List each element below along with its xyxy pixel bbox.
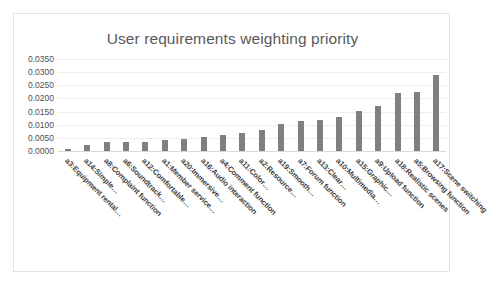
x-label-slot: a9:Upload function (369, 153, 388, 273)
x-label-slot: a2:Resource… (252, 153, 271, 273)
x-axis-category-labels: a3:Equipment rental…a14:Simple…a8:Compla… (58, 153, 446, 273)
bar-slot (349, 59, 368, 151)
bar (336, 117, 342, 151)
bar-slot (388, 59, 407, 151)
bar (142, 142, 148, 151)
chart-title: User requirements weighting priority (14, 30, 451, 48)
bar (298, 121, 304, 151)
x-label-slot: a14:Simple… (77, 153, 96, 273)
bar-slot (233, 59, 252, 151)
bar-slot (369, 59, 388, 151)
x-label-slot: a6:Soundtrack… (116, 153, 135, 273)
bar-slot (213, 59, 232, 151)
bar (259, 130, 265, 151)
bar-slot (155, 59, 174, 151)
bar (84, 145, 90, 151)
x-label-slot: a11:Color… (233, 153, 252, 273)
x-label-slot: a15:Graphic… (349, 153, 368, 273)
y-axis-tick-4: 0.0200 (14, 93, 54, 103)
bar (278, 124, 284, 151)
x-label-slot: a17:Scene switching (427, 153, 446, 273)
x-label-slot: a16:Audio interaction (194, 153, 213, 273)
bar-slot (252, 59, 271, 151)
x-label-slot: a12:Comfortable… (136, 153, 155, 273)
bar (220, 135, 226, 151)
bar (356, 111, 362, 151)
x-label-slot: a18:Realistic scenes (388, 153, 407, 273)
y-axis-tick-7: 0.0350 (14, 54, 54, 64)
y-axis-tick-0: 0.0000 (14, 146, 54, 156)
y-axis-tick-3: 0.0150 (14, 107, 54, 117)
bar (375, 106, 381, 151)
bar-slot (116, 59, 135, 151)
y-axis-tick-2: 0.0100 (14, 120, 54, 130)
bar-slot (77, 59, 96, 151)
y-axis-tick-labels: 0.00000.00500.01000.01500.02000.02500.03… (14, 59, 54, 151)
bar-slot (174, 59, 193, 151)
x-label-slot: a7:Forum function (291, 153, 310, 273)
bar-slot (407, 59, 426, 151)
bar-slot (427, 59, 446, 151)
x-label-slot: a19:Smooth… (271, 153, 290, 273)
x-label-slot: a13:Clear… (310, 153, 329, 273)
x-label-slot: a5:Browsing function (407, 153, 426, 273)
bar-slot (310, 59, 329, 151)
bar-slot (271, 59, 290, 151)
bar (414, 92, 420, 151)
bar (433, 75, 439, 151)
x-label-slot: a10:Multimedia… (330, 153, 349, 273)
bar (395, 93, 401, 151)
bar-slot (58, 59, 77, 151)
x-label-slot: a3:Equipment rental… (58, 153, 77, 273)
x-label-slot: a8:Complaint function (97, 153, 116, 273)
bar (317, 120, 323, 151)
y-axis-tick-5: 0.0250 (14, 80, 54, 90)
bar-slot (291, 59, 310, 151)
x-label-slot: a20:Immersive… (174, 153, 193, 273)
x-label-slot: a4:Comment function (213, 153, 232, 273)
bar (239, 133, 245, 151)
bar (123, 142, 129, 151)
bar-slot (194, 59, 213, 151)
y-axis-tick-6: 0.0300 (14, 67, 54, 77)
bar-slot (136, 59, 155, 151)
chart-frame: User requirements weighting priority 0.0… (13, 13, 450, 272)
y-axis-tick-1: 0.0050 (14, 133, 54, 143)
bar (65, 149, 71, 151)
bar-series (58, 59, 446, 151)
bar (104, 142, 110, 151)
bar (181, 139, 187, 151)
gridline-0 (58, 151, 446, 152)
bar (201, 137, 207, 151)
bar-slot (97, 59, 116, 151)
x-label-slot: a1:Member service… (155, 153, 174, 273)
bar (162, 140, 168, 151)
bar-slot (330, 59, 349, 151)
